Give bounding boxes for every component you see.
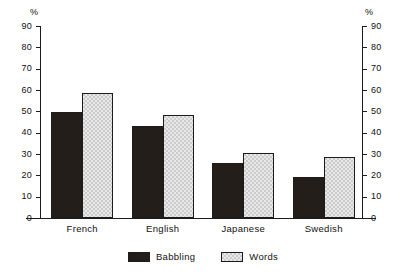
y-tick-right-60 xyxy=(363,90,367,91)
legend-label-babbling: Babbling xyxy=(156,252,195,262)
y-tick-label-right-90: 90 xyxy=(371,22,393,31)
y-axis-unit-left: % xyxy=(30,8,38,17)
bar-chart: % % 0102030405060708090 0102030405060708… xyxy=(0,0,406,276)
x-label-french: French xyxy=(37,224,127,234)
y-tick-label-left-60: 60 xyxy=(12,86,32,95)
y-tick-label-left-90: 90 xyxy=(12,22,32,31)
y-tick-right-40 xyxy=(363,133,367,134)
legend-swatch-babbling xyxy=(128,252,150,262)
bar-french-words xyxy=(82,93,113,218)
y-axis-unit-right: % xyxy=(365,8,373,17)
y-tick-right-70 xyxy=(363,69,367,70)
x-label-english: English xyxy=(118,224,208,234)
y-tick-label-left-40: 40 xyxy=(12,128,32,137)
bar-english-babbling xyxy=(132,126,163,218)
y-tick-label-right-60: 60 xyxy=(371,86,393,95)
y-tick-label-right-40: 40 xyxy=(371,128,393,137)
y-tick-label-right-70: 70 xyxy=(371,64,393,73)
legend-item-words: Words xyxy=(221,252,278,262)
bar-english-words xyxy=(163,115,194,218)
bar-japanese-words xyxy=(243,153,274,218)
bar-group-english xyxy=(132,26,194,218)
x-label-japanese: Japanese xyxy=(198,224,288,234)
legend-swatch-words xyxy=(221,252,243,262)
y-tick-left-0 xyxy=(36,218,40,219)
y-tick-right-80 xyxy=(363,47,367,48)
y-tick-label-left-80: 80 xyxy=(12,43,32,52)
bar-japanese-babbling xyxy=(212,163,243,218)
bar-group-japanese xyxy=(212,26,274,218)
y-tick-label-right-50: 50 xyxy=(371,107,393,116)
y-tick-label-left-20: 20 xyxy=(12,171,32,180)
y-tick-right-0 xyxy=(363,218,367,219)
plot-area xyxy=(40,26,362,218)
y-tick-label-left-0: 0 xyxy=(12,214,32,223)
y-tick-label-left-10: 10 xyxy=(12,192,32,201)
y-tick-right-30 xyxy=(363,154,367,155)
y-tick-right-20 xyxy=(363,175,367,176)
y-tick-label-left-70: 70 xyxy=(12,64,32,73)
bar-group-swedish xyxy=(293,26,355,218)
bar-swedish-words xyxy=(324,157,355,218)
y-tick-right-10 xyxy=(363,197,367,198)
y-tick-label-right-10: 10 xyxy=(371,192,393,201)
y-tick-right-90 xyxy=(363,26,367,27)
y-tick-label-right-0: 0 xyxy=(371,214,393,223)
y-tick-label-left-50: 50 xyxy=(12,107,32,116)
y-tick-right-50 xyxy=(363,111,367,112)
x-label-swedish: Swedish xyxy=(279,224,369,234)
legend-label-words: Words xyxy=(249,252,278,262)
bar-french-babbling xyxy=(51,112,82,218)
y-tick-label-right-30: 30 xyxy=(371,150,393,159)
bar-group-french xyxy=(51,26,113,218)
legend-item-babbling: Babbling xyxy=(128,252,195,262)
y-tick-label-left-30: 30 xyxy=(12,150,32,159)
chart-legend: BabblingWords xyxy=(0,252,406,262)
y-tick-label-right-80: 80 xyxy=(371,43,393,52)
y-tick-label-right-20: 20 xyxy=(371,171,393,180)
x-axis-line xyxy=(26,218,376,219)
bar-swedish-babbling xyxy=(293,177,324,218)
y-axis-right-line xyxy=(362,26,363,219)
